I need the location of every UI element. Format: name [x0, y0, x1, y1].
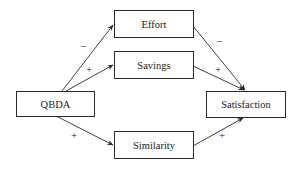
sign-qbda-similarity: +	[71, 130, 77, 141]
node-savings-label: Savings	[137, 60, 170, 71]
node-effort-label: Effort	[142, 19, 167, 30]
node-similarity-label: Similarity	[133, 140, 175, 151]
node-qbda: QBDA	[16, 91, 95, 117]
sign-qbda-savings: +	[86, 64, 92, 75]
node-savings: Savings	[114, 51, 194, 79]
sign-savings-satisfaction: +	[215, 64, 221, 75]
sign-qbda-effort: −	[80, 41, 86, 52]
sign-similarity-satisfaction: +	[219, 130, 225, 141]
node-satisfaction: Satisfaction	[206, 91, 286, 118]
edge-similarity-satisfaction	[193, 118, 243, 146]
node-qbda-label: QBDA	[41, 99, 71, 110]
edge-qbda-similarity	[56, 116, 113, 145]
node-satisfaction-label: Satisfaction	[221, 99, 271, 110]
edge-qbda-effort	[62, 25, 113, 91]
node-similarity: Similarity	[114, 131, 194, 159]
node-effort: Effort	[114, 10, 194, 38]
sign-effort-satisfaction: −	[216, 36, 222, 47]
